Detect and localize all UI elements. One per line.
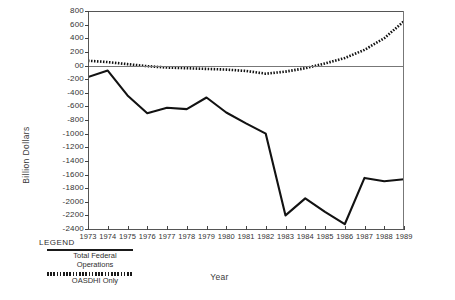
y-tick-mark — [85, 134, 89, 135]
x-tick-mark — [345, 226, 346, 230]
x-tick-mark — [207, 226, 208, 230]
y-tick-mark — [85, 161, 89, 162]
legend: LEGEND Total Federal Operations OASDHI O… — [37, 238, 157, 286]
y-tick-label: -1800 — [63, 184, 84, 192]
x-tick-mark — [226, 226, 227, 230]
y-tick-label: 600 — [70, 21, 84, 29]
series-canvas — [88, 11, 404, 229]
x-tick-mark — [88, 226, 89, 230]
y-tick-label: -2200 — [63, 211, 84, 219]
x-tick-label: 1984 — [297, 233, 314, 241]
y-tick-mark — [85, 11, 89, 12]
y-tick-label: -2000 — [63, 198, 84, 206]
y-tick-label: 200 — [70, 48, 84, 56]
x-tick-mark — [246, 226, 247, 230]
x-tick-label: 1983 — [277, 233, 294, 241]
legend-title: LEGEND — [37, 238, 157, 247]
x-tick-mark — [305, 226, 306, 230]
x-tick-label: 1980 — [218, 233, 235, 241]
x-tick-label: 1988 — [376, 233, 393, 241]
x-tick-label: 1982 — [257, 233, 274, 241]
y-tick-mark — [85, 52, 89, 53]
x-tick-mark — [404, 226, 405, 230]
zero-reference-line — [88, 66, 404, 67]
y-tick-label: 00 — [75, 62, 84, 70]
x-tick-label: 1981 — [237, 233, 254, 241]
x-tick-mark — [108, 226, 109, 230]
y-tick-label: -400 — [67, 89, 84, 97]
plot-area: 80060040020000-200-400-600-800-1000-1200… — [88, 11, 404, 229]
y-tick-mark — [85, 215, 89, 216]
y-tick-mark — [85, 202, 89, 203]
x-tick-label: 1977 — [158, 233, 175, 241]
y-tick-mark — [85, 93, 89, 94]
x-tick-label: 1989 — [395, 233, 412, 241]
chart-figure: Billion Dollars 80060040020000-200-400-6… — [0, 0, 455, 300]
y-axis-title: Billion Dollars — [21, 85, 31, 225]
x-tick-label: 1987 — [356, 233, 373, 241]
y-tick-label: -1200 — [63, 143, 84, 151]
x-tick-label: 1978 — [178, 233, 195, 241]
y-tick-label: -1000 — [63, 130, 84, 138]
x-tick-mark — [384, 226, 385, 230]
x-tick-label: 1986 — [336, 233, 353, 241]
y-tick-label: -1400 — [63, 157, 84, 165]
x-tick-mark — [147, 226, 148, 230]
y-tick-label: -1600 — [63, 171, 84, 179]
x-tick-label: 1985 — [316, 233, 333, 241]
y-tick-mark — [85, 106, 89, 107]
x-tick-mark — [325, 226, 326, 230]
x-tick-mark — [167, 226, 168, 230]
y-tick-mark — [85, 175, 89, 176]
y-tick-mark — [85, 120, 89, 121]
y-tick-label: -600 — [67, 102, 84, 110]
y-tick-label: 800 — [70, 7, 84, 15]
series-line-total-federal-operations — [88, 71, 404, 225]
legend-label-total-federal-operations: Total Federal Operations — [43, 252, 147, 269]
legend-label-oasdhi-only: OASDHI Only — [43, 277, 147, 286]
plot-frame-top — [88, 11, 404, 12]
plot-frame-right — [403, 11, 404, 229]
y-tick-mark — [85, 66, 89, 67]
y-tick-label: 400 — [70, 34, 84, 42]
legend-label-line-2: Operations — [43, 261, 147, 270]
x-tick-mark — [128, 226, 129, 230]
x-tick-label: 1979 — [198, 233, 215, 241]
legend-label-line-1: OASDHI Only — [43, 277, 147, 286]
x-tick-mark — [266, 226, 267, 230]
x-tick-mark — [187, 226, 188, 230]
y-tick-mark — [85, 38, 89, 39]
x-tick-mark — [286, 226, 287, 230]
x-tick-mark — [365, 226, 366, 230]
y-tick-mark — [85, 79, 89, 80]
x-axis-title-text: Year — [210, 272, 228, 282]
y-tick-mark — [85, 147, 89, 148]
y-tick-mark — [85, 188, 89, 189]
y-tick-label: -800 — [67, 116, 84, 124]
y-tick-mark — [85, 25, 89, 26]
y-tick-label: -200 — [67, 75, 84, 83]
